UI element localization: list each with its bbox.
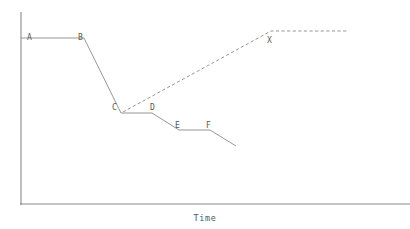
- point-label-d: D: [150, 103, 155, 112]
- x-axis-title: Time: [0, 213, 410, 223]
- series-decline-path: [21, 38, 236, 146]
- point-label-f: F: [206, 121, 211, 130]
- point-label-c: C: [112, 103, 117, 112]
- point-label-a: A: [27, 33, 32, 42]
- point-label-b: B: [78, 33, 83, 42]
- line-chart-figure: A B C D E F X Time: [0, 0, 410, 229]
- point-label-e: E: [175, 121, 180, 130]
- chart-canvas: [0, 0, 410, 229]
- series-recovery-path: [123, 31, 347, 112]
- point-label-x: X: [267, 36, 272, 45]
